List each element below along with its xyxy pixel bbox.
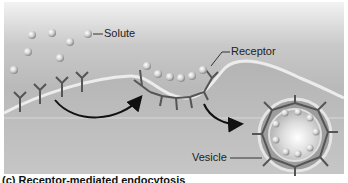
solutes-free (10, 29, 92, 74)
figure-caption: (c) Receptor-mediated endocytosis (2, 174, 185, 183)
endocytosis-illustration (0, 0, 348, 183)
label-vesicle: Vesicle (192, 151, 227, 163)
label-receptor: Receptor (231, 45, 276, 57)
label-solute: Solute (104, 27, 135, 39)
solutes-bound (143, 62, 207, 82)
receptor-leader-line (211, 52, 230, 66)
diagram-stage: Solute Receptor Vesicle (c) Receptor-med… (0, 0, 348, 183)
